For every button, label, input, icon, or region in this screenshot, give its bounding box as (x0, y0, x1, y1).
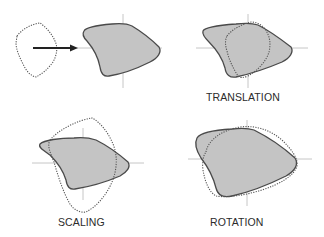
target-shape (196, 128, 297, 196)
transformations-diagram (0, 0, 324, 237)
target-shape (83, 24, 160, 77)
panel-rotation (188, 120, 312, 206)
panel-translation (196, 14, 308, 88)
rotation-label: ROTATION (210, 216, 264, 228)
panel-scaling (32, 118, 144, 212)
source-outline (16, 23, 57, 77)
scaling-label: SCALING (58, 216, 105, 228)
panel-original (16, 14, 162, 88)
arrow-head-icon (70, 45, 78, 52)
target-shape (203, 23, 292, 77)
translation-label: TRANSLATION (206, 91, 280, 103)
